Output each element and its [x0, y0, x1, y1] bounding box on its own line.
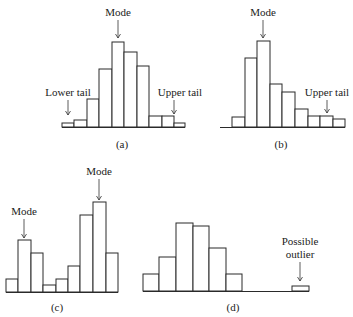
- bar: [149, 116, 162, 127]
- bar: [159, 257, 176, 291]
- bar: [308, 116, 320, 127]
- histogram-b: Mode Upper tail (b): [220, 6, 349, 151]
- bar: [174, 123, 185, 127]
- outlier-label-line2: outlier: [286, 248, 315, 260]
- bar: [31, 253, 43, 292]
- bar: [282, 92, 295, 127]
- histogram-a: Mode Lower tail Upper tail (a): [45, 6, 202, 151]
- outlier-bar: [292, 286, 309, 291]
- histogram-d: Possible outlier (d): [143, 223, 318, 314]
- bar: [295, 109, 308, 127]
- caption-a: (a): [116, 138, 129, 151]
- mode-right-label: Mode: [86, 165, 112, 177]
- bar: [112, 42, 124, 127]
- caption-d: (d): [227, 301, 240, 314]
- bar: [245, 58, 257, 127]
- bar: [124, 52, 137, 127]
- caption-b: (b): [275, 138, 288, 151]
- bar: [99, 69, 112, 127]
- upper-tail-label: Upper tail: [158, 86, 202, 98]
- bar: [193, 226, 209, 291]
- bar: [137, 66, 149, 127]
- bar: [80, 215, 93, 292]
- histogram-c: Mode Mode (c): [6, 165, 118, 314]
- bar: [68, 266, 80, 292]
- bar: [93, 202, 106, 292]
- bar: [226, 274, 242, 291]
- mode-label: Mode: [105, 6, 131, 18]
- bar: [43, 285, 56, 292]
- upper-tail-label: Upper tail: [305, 86, 349, 98]
- bar: [62, 123, 74, 127]
- bar: [6, 279, 18, 292]
- bar: [56, 279, 68, 292]
- bar: [176, 223, 193, 291]
- mode-left-label: Mode: [11, 205, 37, 217]
- caption-c: (c): [51, 301, 64, 314]
- bar: [162, 116, 174, 127]
- outlier-label-line1: Possible: [282, 235, 319, 247]
- histogram-figure: Mode Lower tail Upper tail (a) Mode Uppe…: [0, 0, 353, 317]
- bar: [18, 240, 31, 292]
- bar: [106, 253, 118, 292]
- bar: [320, 116, 333, 127]
- bar: [209, 248, 226, 291]
- lower-tail-label: Lower tail: [45, 86, 91, 98]
- bar: [232, 117, 245, 127]
- mode-label: Mode: [250, 6, 276, 18]
- bar: [143, 274, 159, 291]
- bar: [333, 119, 345, 127]
- bar: [74, 120, 87, 127]
- bar: [257, 41, 270, 127]
- bar: [87, 99, 99, 127]
- bar: [270, 84, 282, 127]
